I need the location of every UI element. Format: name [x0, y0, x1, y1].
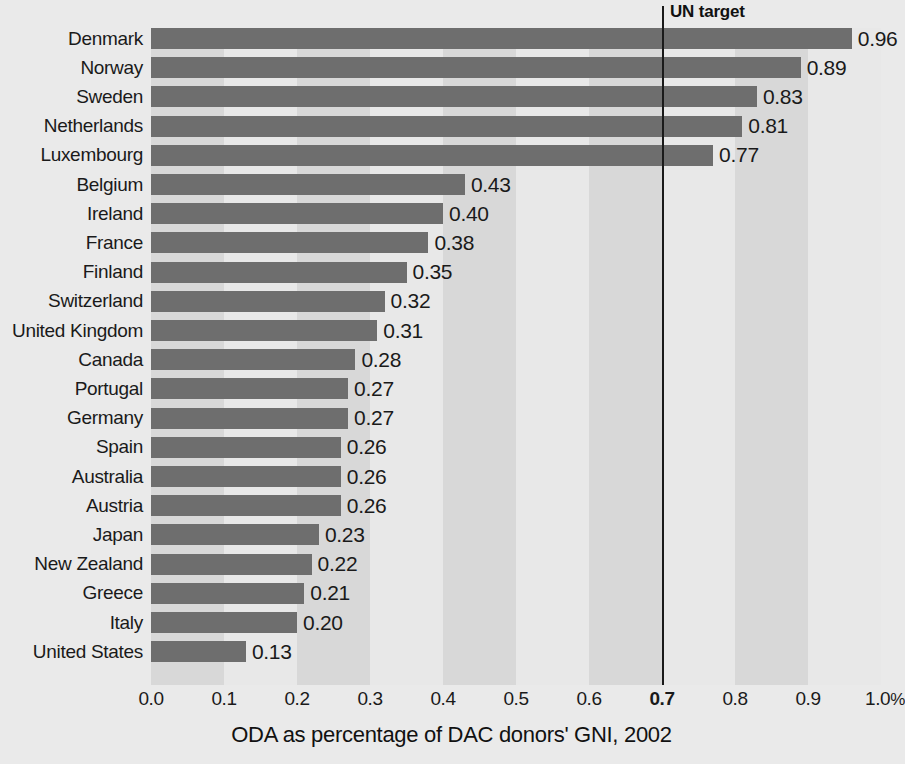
bar-value-label: 0.26 [347, 494, 387, 518]
country-label: Portugal [75, 378, 143, 400]
country-label: United Kingdom [12, 320, 143, 342]
bar-value-label: 0.26 [347, 465, 387, 489]
bar [151, 262, 407, 283]
bar-value-label: 0.40 [449, 202, 489, 226]
x-tick-label: 0.8 [722, 688, 747, 710]
country-label: Italy [110, 612, 143, 634]
bar [151, 174, 465, 195]
x-tick-label: 0.1 [211, 688, 236, 710]
x-tick-label: 0.5 [503, 688, 528, 710]
bar-row: New Zealand0.22 [151, 554, 881, 575]
country-label: France [86, 232, 143, 254]
country-label: Australia [72, 466, 143, 488]
bar-value-label: 0.32 [391, 289, 431, 313]
country-label: Switzerland [48, 290, 143, 312]
bar-row: Netherlands0.81 [151, 116, 881, 137]
bar-value-label: 0.89 [807, 56, 847, 80]
bar [151, 524, 319, 545]
bar-row: Canada0.28 [151, 349, 881, 370]
bar-value-label: 0.23 [325, 523, 365, 547]
bar-value-label: 0.83 [763, 85, 803, 109]
bar [151, 378, 348, 399]
bar [151, 437, 341, 458]
bar-row: Belgium0.43 [151, 174, 881, 195]
bar-row: Australia0.26 [151, 466, 881, 487]
country-label: Luxembourg [40, 144, 143, 166]
country-label: Norway [80, 57, 143, 79]
bar-row: United States0.13 [151, 641, 881, 662]
x-tick-label: 1.0% [865, 688, 905, 710]
bar-value-label: 0.35 [413, 260, 453, 284]
bar [151, 612, 297, 633]
x-tick-label: 0.7 [649, 688, 674, 710]
country-label: Austria [86, 495, 143, 517]
bar-value-label: 0.21 [310, 581, 350, 605]
bar [151, 554, 312, 575]
bar [151, 57, 801, 78]
bar-value-label: 0.31 [383, 319, 423, 343]
country-label: Belgium [76, 174, 143, 196]
bar-row: Finland0.35 [151, 262, 881, 283]
x-tick-label: 0.0 [138, 688, 163, 710]
bar [151, 86, 757, 107]
x-tick-label: 0.2 [284, 688, 309, 710]
x-axis: 0.00.10.20.30.40.50.60.70.80.91.0% [151, 688, 881, 718]
x-tick-label: 0.4 [430, 688, 455, 710]
x-tick-label: 0.6 [576, 688, 601, 710]
bar-value-label: 0.28 [361, 348, 401, 372]
bar [151, 116, 742, 137]
bar-row: Ireland0.40 [151, 203, 881, 224]
bar-value-label: 0.13 [252, 640, 292, 664]
country-label: Sweden [76, 86, 143, 108]
bar-row: Germany0.27 [151, 408, 881, 429]
x-axis-title: ODA as percentage of DAC donors' GNI, 20… [0, 722, 903, 748]
country-label: New Zealand [34, 553, 143, 575]
bar-row: Spain0.26 [151, 437, 881, 458]
country-label: United States [33, 641, 143, 663]
bar [151, 349, 355, 370]
x-tick-label: 0.9 [795, 688, 820, 710]
country-label: Canada [78, 349, 143, 371]
bar-row: Austria0.26 [151, 495, 881, 516]
bar-row: Sweden0.83 [151, 86, 881, 107]
bar-value-label: 0.22 [318, 552, 358, 576]
bar [151, 320, 377, 341]
country-label: Japan [93, 524, 143, 546]
bar-row: Japan0.23 [151, 524, 881, 545]
un-target-line [662, 6, 664, 685]
bar [151, 145, 713, 166]
bar-value-label: 0.27 [354, 377, 394, 401]
bar-value-label: 0.96 [858, 27, 898, 51]
bar-row: Greece0.21 [151, 583, 881, 604]
bar-value-label: 0.26 [347, 435, 387, 459]
bar [151, 641, 246, 662]
bar-row: Luxembourg0.77 [151, 145, 881, 166]
country-label: Finland [83, 261, 143, 283]
bar-value-label: 0.43 [471, 173, 511, 197]
bar [151, 466, 341, 487]
bar-row: Portugal0.27 [151, 378, 881, 399]
bar-row: United Kingdom0.31 [151, 320, 881, 341]
country-label: Spain [96, 436, 143, 458]
x-tick-label: 0.3 [357, 688, 382, 710]
un-target-label: UN target [670, 2, 745, 22]
bar [151, 203, 443, 224]
bar-row: Switzerland0.32 [151, 291, 881, 312]
country-label: Netherlands [44, 115, 143, 137]
bar-row: Italy0.20 [151, 612, 881, 633]
plot-area: Denmark0.96Norway0.89Sweden0.83Netherlan… [151, 28, 881, 685]
bar-row: France0.38 [151, 232, 881, 253]
bar-row: Denmark0.96 [151, 28, 881, 49]
country-label: Germany [67, 407, 143, 429]
country-label: Greece [82, 582, 143, 604]
country-label: Denmark [68, 28, 143, 50]
bar-value-label: 0.27 [354, 406, 394, 430]
bar [151, 495, 341, 516]
bar-value-label: 0.81 [748, 114, 788, 138]
bar-row: Norway0.89 [151, 57, 881, 78]
percent-sign: % [890, 690, 905, 709]
bar [151, 291, 385, 312]
bar-value-label: 0.20 [303, 611, 343, 635]
bar [151, 232, 428, 253]
